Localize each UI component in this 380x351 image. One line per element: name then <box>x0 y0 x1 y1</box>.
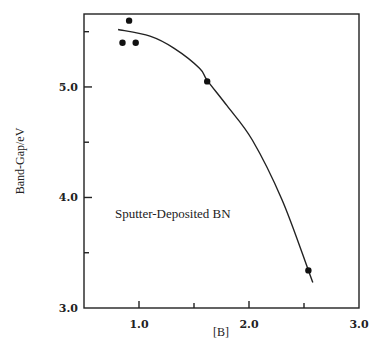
data-point <box>119 40 125 46</box>
x-tick-label: 1.0 <box>129 318 148 331</box>
y-axis-label: Band-Gap/eV <box>13 127 27 194</box>
plot-frame <box>84 14 359 308</box>
x-axis: 1.02.03.0 <box>129 301 368 331</box>
y-axis: 3.04.05.0 <box>59 32 92 315</box>
fit-curve <box>118 30 313 283</box>
data-point <box>305 267 311 273</box>
data-point <box>133 40 139 46</box>
data-point <box>204 78 210 84</box>
x-axis-label: [B] <box>213 325 229 339</box>
band-gap-chart: 1.02.03.0 3.04.05.0 [B] Band-Gap/eV Sput… <box>0 0 380 351</box>
data-points <box>119 17 311 273</box>
data-point <box>126 17 132 23</box>
y-tick-label: 5.0 <box>59 81 78 94</box>
x-tick-label: 3.0 <box>349 318 368 331</box>
y-tick-label: 4.0 <box>59 191 78 204</box>
x-tick-label: 2.0 <box>239 318 258 331</box>
y-tick-label: 3.0 <box>59 302 78 315</box>
annotation-sputter-deposited-bn: Sputter-Deposited BN <box>115 206 231 221</box>
